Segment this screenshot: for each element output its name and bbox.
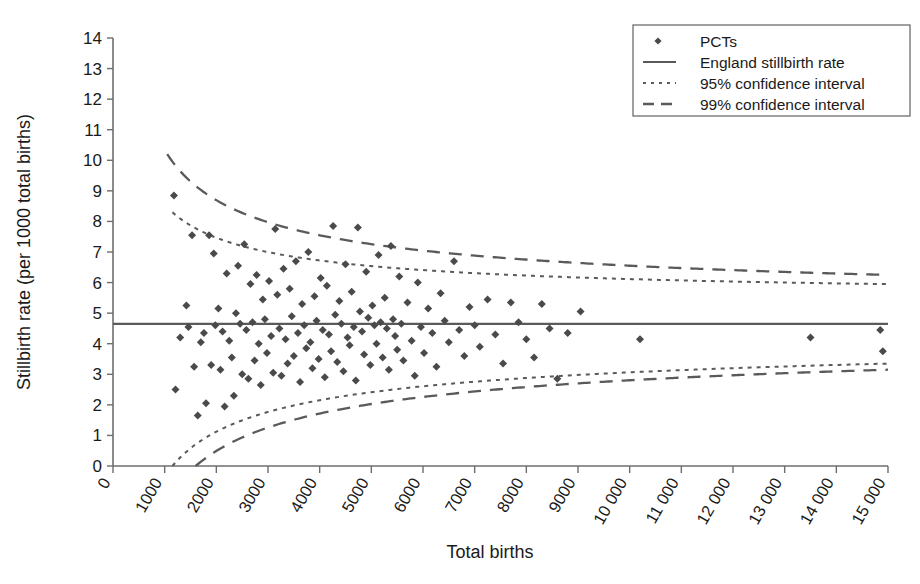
- data-point-marker: [315, 355, 323, 363]
- data-point-marker: [244, 375, 252, 383]
- data-point-marker: [246, 280, 254, 288]
- data-point-marker: [319, 326, 327, 334]
- data-point-marker: [327, 347, 335, 355]
- y-tick-label: 11: [84, 121, 102, 140]
- data-point-marker: [225, 337, 233, 345]
- data-point-marker: [286, 285, 294, 293]
- data-point-marker: [368, 302, 376, 310]
- ci-95-upper-curve: [172, 212, 888, 284]
- data-point-marker: [182, 302, 190, 310]
- x-tick-label: 4000: [286, 475, 320, 516]
- data-point-marker: [408, 337, 416, 345]
- data-point-marker: [263, 349, 271, 357]
- data-point-marker: [471, 321, 479, 329]
- data-point-marker: [445, 338, 453, 346]
- data-point-marker: [210, 250, 218, 258]
- data-point-marker: [375, 251, 383, 259]
- data-point-marker: [172, 386, 180, 394]
- data-point-marker: [455, 326, 463, 334]
- funnel-plot-figure: 01234567891011121314 0100020003000400050…: [0, 0, 920, 584]
- data-point-marker: [348, 288, 356, 296]
- data-point-marker: [577, 308, 585, 316]
- data-point-marker: [339, 367, 347, 375]
- data-point-marker: [393, 346, 401, 354]
- data-point-marker: [344, 334, 352, 342]
- funnel-plot-svg: 01234567891011121314 0100020003000400050…: [0, 0, 920, 584]
- y-tick-label: 13: [83, 60, 102, 79]
- data-point-marker: [311, 292, 319, 300]
- y-tick-label: 8: [93, 212, 102, 231]
- y-tick-label: 4: [93, 335, 102, 354]
- data-point-marker: [337, 320, 345, 328]
- data-point-marker: [354, 224, 362, 232]
- x-tick-label: 2000: [183, 475, 217, 516]
- data-point-marker: [275, 324, 283, 332]
- data-point-marker: [420, 349, 428, 357]
- data-point-marker: [383, 324, 391, 332]
- data-point-marker: [269, 369, 277, 377]
- data-point-marker: [333, 358, 341, 366]
- y-tick-label: 5: [93, 304, 102, 323]
- data-point-marker: [424, 305, 432, 313]
- data-point-marker: [397, 320, 405, 328]
- data-point-marker: [216, 366, 224, 374]
- data-point-marker: [358, 327, 366, 335]
- legend-label: 99% confidence interval: [700, 96, 865, 113]
- data-point-marker: [507, 298, 515, 306]
- data-point-marker: [242, 326, 250, 334]
- data-point-marker: [636, 335, 644, 343]
- y-tick-label: 1: [93, 426, 102, 445]
- confidence-bands: [167, 154, 888, 466]
- data-point-marker: [214, 305, 222, 313]
- data-point-marker: [346, 341, 354, 349]
- y-tick-label: 9: [93, 182, 102, 201]
- data-point-marker: [267, 332, 275, 340]
- y-axis-title: Stillbirth rate (per 1000 total births): [14, 114, 34, 390]
- x-tick-label: 13 000: [744, 475, 785, 528]
- data-point-marker: [280, 265, 288, 273]
- data-point-marker: [190, 363, 198, 371]
- data-point-marker: [389, 315, 397, 323]
- data-point-marker: [317, 274, 325, 282]
- y-tick-label: 0: [93, 457, 102, 476]
- data-point-marker: [564, 329, 572, 337]
- x-tick-label: 12 000: [693, 475, 734, 528]
- data-point-marker: [356, 308, 364, 316]
- data-point-marker: [170, 191, 178, 199]
- x-axis-title: Total births: [446, 542, 533, 562]
- data-point-marker: [223, 269, 231, 277]
- data-point-marker: [298, 300, 306, 308]
- data-point-marker: [335, 297, 343, 305]
- data-point-marker: [176, 334, 184, 342]
- data-point-marker: [522, 335, 530, 343]
- y-tick-label: 6: [93, 274, 102, 293]
- data-point-marker: [202, 399, 210, 407]
- x-tick-label: 10 000: [589, 475, 630, 528]
- data-point-marker: [200, 329, 208, 337]
- data-point-marker: [238, 370, 246, 378]
- data-point-marker: [277, 372, 285, 380]
- data-point-marker: [364, 314, 372, 322]
- ci-95-lower-curve: [172, 364, 888, 466]
- y-axis: 01234567891011121314: [83, 29, 113, 476]
- data-point-marker: [432, 363, 440, 371]
- data-point-marker: [807, 334, 815, 342]
- data-point-marker: [381, 294, 389, 302]
- data-point-marker: [284, 360, 292, 368]
- data-point-marker: [232, 309, 240, 317]
- legend-label: 95% confidence interval: [700, 75, 865, 92]
- data-point-marker: [205, 231, 213, 239]
- x-tick-label: 14 000: [796, 475, 837, 528]
- data-point-marker: [221, 402, 229, 410]
- data-point-marker: [255, 340, 263, 348]
- data-point-marker: [236, 320, 244, 328]
- data-point-marker: [450, 257, 458, 265]
- data-point-marker: [265, 277, 273, 285]
- data-point-marker: [290, 352, 298, 360]
- x-tick-label: 3000: [235, 475, 269, 516]
- y-tick-label: 14: [83, 29, 102, 48]
- data-point-marker: [251, 357, 259, 365]
- data-point-marker: [331, 311, 339, 319]
- data-point-marker: [876, 326, 884, 334]
- data-point-marker: [538, 300, 546, 308]
